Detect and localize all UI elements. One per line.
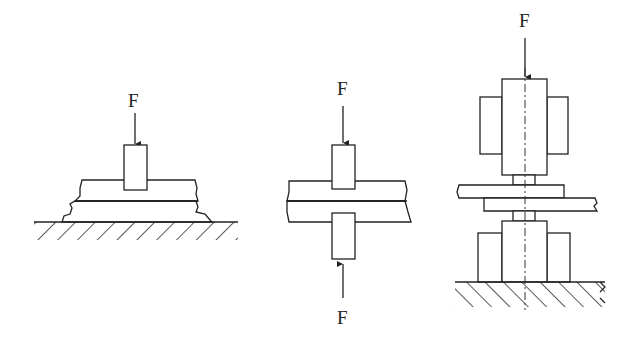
lower-electrode-tip <box>513 211 535 221</box>
lower-plate <box>62 201 212 222</box>
base-hatched <box>34 222 238 248</box>
upper-electrode-tip <box>513 175 535 185</box>
lower-punch <box>332 213 355 259</box>
diagram-canvas: F F F <box>0 0 628 338</box>
lower-right-holder <box>547 233 570 282</box>
base-hatched <box>455 282 605 307</box>
lower-workpiece-plate <box>484 198 597 211</box>
force-label-f2-top: F <box>337 78 348 99</box>
force-label-f1: F <box>128 90 139 111</box>
upper-left-holder <box>480 97 502 154</box>
force-label-f2-bottom: F <box>337 307 348 328</box>
lower-left-holder <box>478 233 502 282</box>
figure-electrode-press: F <box>455 10 605 310</box>
force-label-f3: F <box>519 10 530 31</box>
figure-single-sided: F <box>34 90 238 248</box>
punch <box>124 145 147 190</box>
upper-punch <box>332 145 355 189</box>
figure-double-sided: F F <box>287 78 411 328</box>
upper-workpiece-plate <box>457 185 564 198</box>
upper-right-holder <box>547 97 568 154</box>
